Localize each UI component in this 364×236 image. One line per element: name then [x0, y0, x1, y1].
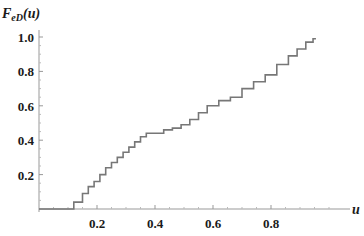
y-tick-label: 0.4	[18, 133, 35, 148]
y-tick-label: 0.2	[18, 168, 34, 183]
x-tick-label: 0.4	[147, 216, 164, 231]
x-tick-label: 0.6	[205, 216, 222, 231]
y-tick-label: 0.8	[18, 64, 35, 79]
cdf-step-line	[39, 39, 316, 209]
x-axis-label: u	[352, 202, 360, 217]
x-tick-label: 0.2	[89, 216, 105, 231]
y-axis-label: FeD(u)	[1, 6, 40, 23]
svg-text:FeD(u): FeD(u)	[1, 6, 40, 23]
chart: FeD(u) 0.20.40.60.81.0 0.20.40.60.8 u	[0, 0, 364, 236]
x-tick-label: 0.8	[263, 216, 280, 231]
y-tick-label: 1.0	[18, 30, 34, 45]
y-tick-label: 0.6	[18, 99, 35, 114]
